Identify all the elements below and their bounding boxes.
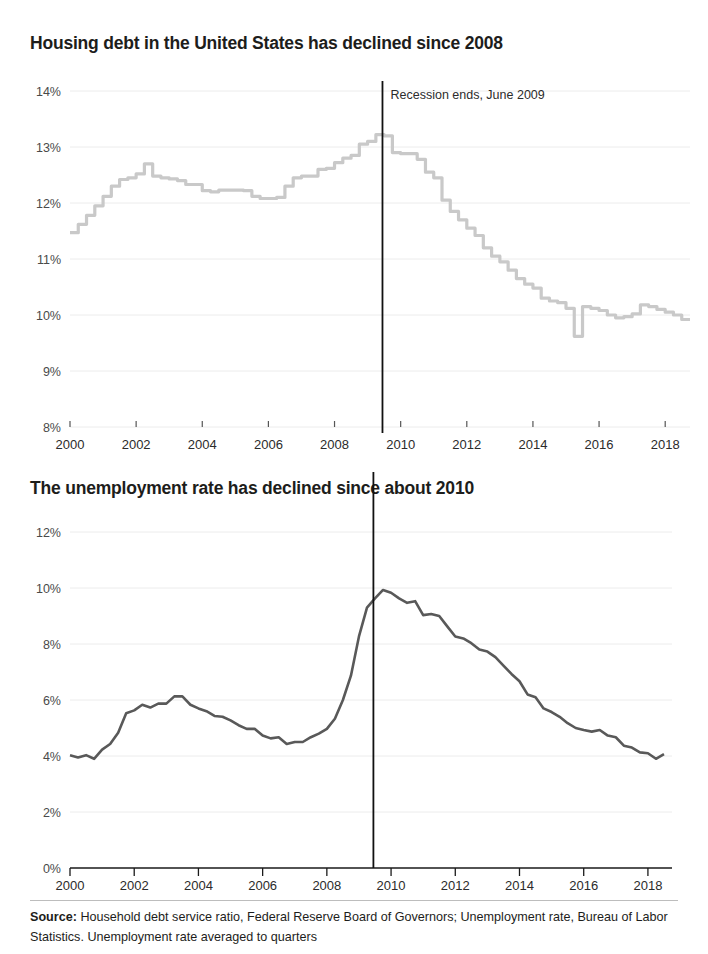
chart-1-recession-label: Recession ends, June 2009: [390, 88, 544, 102]
xtick-label: 2000: [56, 878, 85, 893]
housing-debt-chart: 8%9%10%11%12%13%14% 20002002200420062008…: [0, 75, 708, 435]
chart-2-ytick-labels: 0%2%4%6%8%10%12%: [36, 526, 61, 876]
xtick-label: 2006: [248, 878, 277, 893]
ytick-label: 0%: [43, 862, 61, 876]
ytick-label: 9%: [43, 365, 61, 379]
xtick-label: 2002: [120, 878, 149, 893]
ytick-label: 11%: [37, 253, 61, 267]
chart-1-xaxis-ticks: [70, 421, 665, 427]
xtick-label: 2012: [452, 437, 481, 452]
chart-2-gridlines: [70, 532, 672, 812]
housing-debt-svg: 8%9%10%11%12%13%14% 20002002200420062008…: [0, 75, 708, 435]
xtick-label: 2002: [122, 437, 151, 452]
xtick-label: 2004: [188, 437, 217, 452]
source-label: Source:: [30, 910, 77, 924]
ytick-label: 2%: [43, 806, 61, 820]
xtick-label: 2004: [184, 878, 213, 893]
xtick-label: 2018: [651, 437, 680, 452]
xtick-label: 2016: [569, 878, 598, 893]
infographic-page: Housing debt in the United States has de…: [0, 0, 708, 954]
ytick-label: 8%: [43, 638, 61, 652]
source-divider: [30, 900, 678, 901]
xtick-label: 2016: [585, 437, 614, 452]
xtick-label: 2010: [386, 437, 415, 452]
ytick-label: 14%: [36, 85, 61, 99]
xtick-label: 2012: [441, 878, 470, 893]
xtick-label: 2018: [633, 878, 662, 893]
chart-2-series-line: [70, 590, 664, 759]
chart-1-gridlines: [70, 91, 690, 427]
ytick-label: 6%: [43, 694, 61, 708]
ytick-label: 10%: [36, 582, 61, 596]
chart-2-title: The unemployment rate has declined since…: [30, 478, 474, 499]
source-note: Source: Household debt service ratio, Fe…: [30, 908, 682, 947]
chart-1-series-line: [70, 135, 690, 337]
xtick-label: 2008: [312, 878, 341, 893]
unemployment-svg: 0%2%4%6%8%10%12% 20002002200420062008201…: [0, 512, 708, 877]
xtick-label: 2008: [320, 437, 349, 452]
ytick-label: 10%: [36, 309, 61, 323]
chart-1-ytick-labels: 8%9%10%11%12%13%14%: [36, 85, 61, 435]
ytick-label: 8%: [43, 421, 61, 435]
ytick-label: 4%: [43, 750, 61, 764]
ytick-label: 12%: [36, 197, 61, 211]
ytick-label: 12%: [36, 526, 61, 540]
chart-2-xaxis-ticks: [70, 868, 648, 876]
unemployment-chart: 0%2%4%6%8%10%12% 20002002200420062008201…: [0, 512, 708, 877]
xtick-label: 2010: [377, 878, 406, 893]
chart-1-xtick-labels: 2000200220042006200820102012201420162018: [56, 437, 680, 452]
chart-2-xtick-labels: 2000200220042006200820102012201420162018: [56, 878, 663, 893]
xtick-label: 2014: [505, 878, 534, 893]
xtick-label: 2000: [56, 437, 85, 452]
ytick-label: 13%: [36, 141, 61, 155]
xtick-label: 2014: [518, 437, 547, 452]
chart-1-title: Housing debt in the United States has de…: [30, 33, 503, 54]
xtick-label: 2006: [254, 437, 283, 452]
source-text: Household debt service ratio, Federal Re…: [30, 910, 668, 944]
